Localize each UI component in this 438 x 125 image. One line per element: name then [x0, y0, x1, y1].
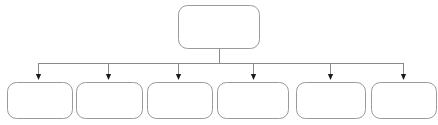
arrow-1-head-icon: [36, 74, 41, 80]
diagram-canvas: [0, 0, 438, 125]
arrow-1: [36, 63, 41, 80]
child-node-4-box[interactable]: [218, 83, 289, 119]
child-node-3[interactable]: [148, 83, 213, 119]
arrow-5-head-icon: [328, 74, 333, 80]
child-node-4[interactable]: [218, 83, 289, 119]
arrow-6-head-icon: [401, 74, 406, 80]
arrow-3-head-icon: [176, 74, 181, 80]
child-node-1-box[interactable]: [8, 83, 73, 119]
child-node-1[interactable]: [8, 83, 73, 119]
arrow-4: [251, 63, 256, 80]
arrow-3: [176, 63, 181, 80]
parent-node-box[interactable]: [179, 6, 260, 49]
arrow-5: [328, 63, 333, 80]
arrow-connectors-group: [36, 63, 406, 80]
hierarchy-diagram: [0, 0, 438, 125]
child-node-6[interactable]: [372, 83, 437, 119]
child-node-6-box[interactable]: [372, 83, 437, 119]
child-node-2-box[interactable]: [77, 83, 143, 119]
child-node-5-box[interactable]: [297, 83, 366, 119]
child-node-2[interactable]: [77, 83, 143, 119]
child-node-5[interactable]: [297, 83, 366, 119]
arrow-2-head-icon: [106, 74, 111, 80]
arrow-6: [401, 63, 406, 80]
arrow-2: [106, 63, 111, 80]
parent-node[interactable]: [179, 6, 260, 49]
arrow-4-head-icon: [251, 74, 256, 80]
child-nodes-group: [8, 83, 437, 119]
child-node-3-box[interactable]: [148, 83, 213, 119]
